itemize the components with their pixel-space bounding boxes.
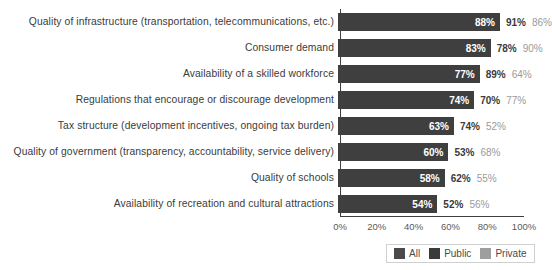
side-values: 78%90%: [491, 39, 543, 57]
bar-all: 88%: [338, 13, 500, 31]
x-axis-tick: 40%: [404, 221, 423, 232]
bar-value-public: 89%: [486, 69, 506, 80]
side-values: 52%56%: [437, 195, 489, 213]
bar-all: 83%: [338, 39, 491, 57]
bar-value-private: 68%: [480, 147, 500, 158]
bar-value-public: 91%: [506, 17, 526, 28]
x-axis-tick: 80%: [478, 221, 497, 232]
legend-swatch-icon: [394, 248, 405, 259]
bar-value-public: 62%: [451, 173, 471, 184]
legend-item[interactable]: Public: [429, 248, 471, 259]
category-label: Tax structure (development incentives, o…: [0, 120, 338, 131]
bar-value-private: 64%: [512, 69, 532, 80]
bar-row: Quality of schools58%62%55%: [0, 165, 551, 191]
legend-label: Public: [444, 248, 471, 259]
plot-cell: 63%74%52%: [338, 113, 551, 139]
bar-value-public: 52%: [443, 199, 463, 210]
bar-row: Quality of government (transparency, acc…: [0, 139, 551, 165]
bar-value-all: 88%: [475, 17, 500, 28]
bar-row: Availability of a skilled workforce77%89…: [0, 61, 551, 87]
category-label: Availability of recreation and cultural …: [0, 198, 338, 209]
y-axis-line: [340, 9, 341, 217]
bar-all: 54%: [338, 195, 437, 213]
x-axis-tick: 0%: [333, 221, 347, 232]
side-values: 91%86%: [500, 13, 552, 31]
side-values: 70%77%: [474, 91, 526, 109]
bar-all: 60%: [338, 143, 448, 161]
bar-value-all: 63%: [429, 121, 454, 132]
x-axis-tick: 100%: [512, 221, 536, 232]
side-values: 53%68%: [448, 143, 500, 161]
bar-value-public: 70%: [480, 95, 500, 106]
plot-cell: 58%62%55%: [338, 165, 551, 191]
bar-row: Tax structure (development incentives, o…: [0, 113, 551, 139]
x-axis-tick: 20%: [367, 221, 386, 232]
bar-row: Regulations that encourage or discourage…: [0, 87, 551, 113]
x-axis-tick: 60%: [441, 221, 460, 232]
plot-cell: 60%53%68%: [338, 139, 551, 165]
category-label: Quality of infrastructure (transportatio…: [0, 16, 338, 27]
plot-cell: 88%91%86%: [338, 9, 551, 35]
bar-all: 58%: [338, 169, 445, 187]
legend-swatch-icon: [429, 248, 440, 259]
bar-row: Availability of recreation and cultural …: [0, 191, 551, 217]
bar-value-all: 58%: [420, 173, 445, 184]
bar-row: Consumer demand83%78%90%: [0, 35, 551, 61]
bar-all: 63%: [338, 117, 454, 135]
category-label: Quality of schools: [0, 172, 338, 183]
category-label: Availability of a skilled workforce: [0, 68, 338, 79]
plot-cell: 74%70%77%: [338, 87, 551, 113]
bar-value-public: 74%: [460, 121, 480, 132]
bar-rows: Quality of infrastructure (transportatio…: [0, 9, 551, 217]
side-values: 62%55%: [445, 169, 497, 187]
bar-value-all: 74%: [449, 95, 474, 106]
plot-cell: 77%89%64%: [338, 61, 551, 87]
bar-value-private: 56%: [469, 199, 489, 210]
bar-value-all: 60%: [423, 147, 448, 158]
bar-value-all: 54%: [412, 199, 437, 210]
bar-value-private: 86%: [532, 17, 552, 28]
side-values: 89%64%: [480, 65, 532, 83]
legend-swatch-icon: [480, 248, 491, 259]
legend-item[interactable]: Private: [480, 248, 526, 259]
plot-cell: 83%78%90%: [338, 35, 551, 61]
bar-value-all: 83%: [466, 43, 491, 54]
bar-value-private: 90%: [523, 43, 543, 54]
x-axis-line: [340, 216, 524, 217]
bar-value-private: 52%: [486, 121, 506, 132]
bar-row: Quality of infrastructure (transportatio…: [0, 9, 551, 35]
plot-cell: 54%52%56%: [338, 191, 551, 217]
x-axis-tick-labels: 0%20%40%60%80%100%: [340, 221, 524, 235]
category-label: Quality of government (transparency, acc…: [0, 146, 338, 157]
chart-legend: AllPublicPrivate: [386, 244, 535, 263]
category-label: Consumer demand: [0, 42, 338, 53]
legend-item[interactable]: All: [394, 248, 420, 259]
legend-label: Private: [495, 248, 526, 259]
category-label: Regulations that encourage or discourage…: [0, 94, 338, 105]
bar-value-public: 53%: [454, 147, 474, 158]
bar-value-all: 77%: [455, 69, 480, 80]
bar-value-private: 77%: [506, 95, 526, 106]
bar-all: 77%: [338, 65, 480, 83]
side-values: 74%52%: [454, 117, 506, 135]
legend-label: All: [409, 248, 420, 259]
bar-value-public: 78%: [497, 43, 517, 54]
bar-value-private: 55%: [477, 173, 497, 184]
bar-all: 74%: [338, 91, 474, 109]
